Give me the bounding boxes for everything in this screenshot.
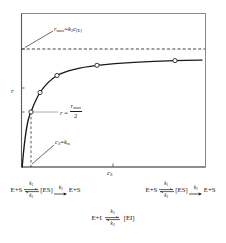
single-arrow-glyph <box>54 192 67 196</box>
equation-inhibitor-k-reverse: k3 <box>111 221 115 228</box>
equation-left-products: E+S <box>68 187 81 194</box>
single-arrow-glyph <box>189 192 202 196</box>
equation-left: E+S k1 k1 [ES] k2 <box>10 181 81 200</box>
annotation-km: cS=km <box>55 139 70 147</box>
x-axis-label-sub: S <box>110 172 112 177</box>
equation-right-reactants: E+S <box>145 187 158 194</box>
equation-left-k-reverse: k1 <box>29 193 33 200</box>
annotation-half-max: r = rmax 2 <box>60 103 82 119</box>
plot-area: rmax=k2c[E] r = rmax 2 cS=km r cS <box>0 0 226 180</box>
equation-inhibitor-reversible-arrow-icon: k3 k3 <box>105 209 120 228</box>
equation-inhibitor-complex: [EI] <box>123 215 135 222</box>
equation-left-forward-arrow-icon: k2 <box>54 185 67 196</box>
equation-left-reactants: E+S <box>10 187 23 194</box>
equation-right-complex: [ES] <box>175 187 188 194</box>
annotation-half-num-sub: max <box>73 105 81 110</box>
plot-svg <box>0 0 226 180</box>
equation-right-products: E+S <box>203 187 216 194</box>
annotation-half-denominator: 2 <box>70 112 82 119</box>
annotation-half-fraction: rmax 2 <box>70 103 82 119</box>
equation-right: E+S k1 k1 [ES] k2 <box>145 181 216 200</box>
saturation-curve <box>22 60 202 167</box>
data-point-marker <box>55 73 59 77</box>
annotation-half-r: r <box>60 109 63 116</box>
reaction-equations: E+S k1 k1 [ES] k2 <box>0 181 226 243</box>
figure-root: rmax=k2c[E] r = rmax 2 cS=km r cS E+S <box>0 0 226 243</box>
equation-left-k2: k2 <box>59 185 63 192</box>
double-arrow-glyph <box>24 188 39 193</box>
annotation-rmax-c-sub: [E] <box>76 28 82 33</box>
equation-left-k-forward: k1 <box>29 181 33 188</box>
double-arrow-glyph <box>159 188 174 193</box>
annotation-half-numerator: rmax <box>70 103 82 112</box>
plot-frame <box>22 14 206 168</box>
data-point-marker <box>95 63 99 67</box>
data-point-marker <box>38 90 42 94</box>
equation-right-k-forward: k1 <box>164 181 168 188</box>
equation-right-k2: k2 <box>194 185 198 192</box>
y-axis-label: r <box>11 88 14 95</box>
equation-right-reversible-arrow-icon: k1 k1 <box>159 181 174 200</box>
equation-right-forward-arrow-icon: k2 <box>189 185 202 196</box>
equation-left-complex: [ES] <box>40 187 53 194</box>
curve-data-markers <box>29 59 177 115</box>
equation-inhibitor-reactants: E+I <box>91 215 102 222</box>
equation-inhibitor-k-forward: k3 <box>111 209 115 216</box>
equation-left-reversible-arrow-icon: k1 k1 <box>24 181 39 200</box>
leader-line-km <box>32 145 54 164</box>
x-axis-label: cS <box>107 170 112 178</box>
data-point-marker <box>173 59 177 63</box>
annotation-rmax: rmax=k2c[E] <box>54 26 82 34</box>
data-point-marker <box>29 110 33 114</box>
equation-row-bottom: E+I k3 k3 [EI] <box>0 209 226 228</box>
double-arrow-glyph <box>105 216 120 221</box>
equation-right-k-reverse: k1 <box>164 193 168 200</box>
annotation-half-equals: = <box>64 109 68 116</box>
equation-inhibitor: E+I k3 k3 [EI] <box>91 209 135 228</box>
annotation-km-k-sub: m <box>67 141 70 146</box>
equation-row-top: E+S k1 k1 [ES] k2 <box>0 181 226 200</box>
leader-line-rmax <box>25 31 53 48</box>
